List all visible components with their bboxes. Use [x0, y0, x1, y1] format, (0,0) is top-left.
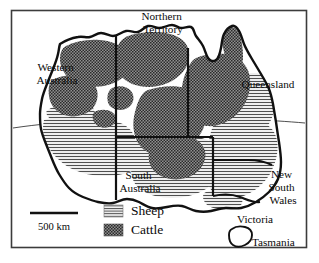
label-queensland: Queensland [242, 78, 295, 90]
tasmania-outline [229, 226, 252, 246]
map-canvas: Western Australia Northern Territory Que… [0, 0, 319, 263]
scale-bar-label: 500 km [38, 221, 71, 232]
legend-label-sheep: Sheep [131, 203, 164, 218]
legend-label-cattle: Cattle [131, 222, 163, 237]
label-south-australia: South Australia [119, 169, 160, 194]
label-new-south-wales: New South Wales [269, 168, 298, 206]
label-western-australia: Western Australia [36, 61, 77, 86]
legend-swatch-cattle [104, 224, 123, 236]
cattle-region-tanami [107, 86, 133, 110]
label-tasmania: Tasmania [252, 236, 295, 248]
australia-livestock-map: Western Australia Northern Territory Que… [0, 0, 319, 263]
tasmania-island [229, 226, 252, 246]
label-northern-territory: Northern Territory [141, 10, 184, 35]
legend-item-cattle: Cattle [104, 222, 163, 237]
legend-swatch-sheep [104, 205, 123, 217]
legend-item-sheep: Sheep [104, 203, 164, 218]
label-victoria: Victoria [237, 213, 273, 225]
